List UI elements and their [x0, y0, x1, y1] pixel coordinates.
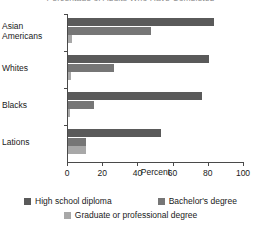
bar	[68, 64, 114, 72]
bar	[68, 129, 161, 137]
legend-swatch-graduate-degree	[64, 212, 71, 219]
legend-label-graduate-degree: Graduate or professional degree	[75, 210, 197, 220]
x-axis-line	[67, 162, 244, 163]
bar	[68, 35, 72, 43]
bar	[68, 146, 86, 154]
bar-chart: Percentage of Adults Who Have Completed …	[0, 0, 261, 231]
y-tick	[64, 51, 67, 52]
x-tick	[137, 162, 138, 166]
chart-legend: High school diploma Bachelor's degree Gr…	[0, 196, 261, 224]
legend-swatch-bachelors-degree	[158, 198, 165, 205]
legend-item-bachelors-degree: Bachelor's degree	[158, 196, 237, 206]
legend-item-high-school-diploma: High school diploma	[24, 196, 112, 206]
legend-swatch-high-school-diploma	[24, 198, 31, 205]
y-tick	[64, 14, 67, 15]
y-tick	[64, 88, 67, 89]
bar	[68, 109, 70, 117]
bar	[68, 27, 151, 35]
category-label: Lations	[2, 137, 62, 147]
bar	[68, 18, 214, 26]
legend-label-bachelors-degree: Bachelor's degree	[169, 196, 237, 206]
bar	[68, 101, 94, 109]
bar	[68, 92, 202, 100]
x-tick	[243, 162, 244, 166]
bar	[68, 138, 86, 146]
category-label: AsianAmericans	[2, 21, 62, 41]
chart-title: Percentage of Adults Who Have Completed	[0, 0, 261, 1]
legend-item-graduate-degree: Graduate or professional degree	[64, 210, 197, 220]
bar	[68, 72, 71, 80]
x-tick	[102, 162, 103, 166]
y-tick	[64, 125, 67, 126]
category-label: Blacks	[2, 100, 62, 110]
bar	[68, 55, 209, 63]
x-tick	[67, 162, 68, 166]
plot-area: 020406080100AsianAmericansWhitesBlacksLa…	[67, 14, 243, 162]
x-tick	[208, 162, 209, 166]
category-label: Whites	[2, 63, 62, 73]
x-axis-title: Percent	[67, 167, 244, 177]
x-tick	[173, 162, 174, 166]
legend-label-high-school-diploma: High school diploma	[35, 196, 112, 206]
